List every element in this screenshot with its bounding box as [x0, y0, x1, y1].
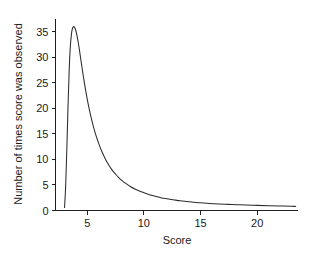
chart-canvas: 05101520253035 5101520 Score Number of t… — [0, 0, 309, 254]
x-tick-label: 15 — [194, 217, 206, 229]
x-tick-label: 10 — [138, 217, 150, 229]
y-tick-label: 25 — [36, 77, 48, 89]
distribution-curve — [65, 27, 296, 208]
x-tick-label: 5 — [84, 217, 90, 229]
y-tick-label: 35 — [36, 26, 48, 38]
y-tick-label: 0 — [42, 205, 48, 217]
y-tick-label: 30 — [36, 51, 48, 63]
y-tick-label: 5 — [42, 179, 48, 191]
y-tick-label: 10 — [36, 153, 48, 165]
x-axis-ticks: 5101520 — [84, 211, 263, 229]
x-axis-title: Score — [163, 234, 192, 246]
y-axis-ticks: 05101520253035 — [36, 26, 55, 217]
y-axis-title: Number of times score was observed — [12, 23, 24, 205]
y-tick-label: 20 — [36, 102, 48, 114]
x-tick-label: 20 — [251, 217, 263, 229]
y-tick-label: 15 — [36, 128, 48, 140]
chart-figure: 05101520253035 5101520 Score Number of t… — [0, 0, 309, 254]
